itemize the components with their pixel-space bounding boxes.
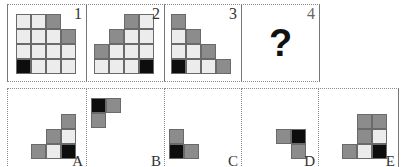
light-cell	[16, 14, 31, 29]
gray-cell	[169, 129, 184, 144]
gray-cell	[357, 114, 372, 129]
gray-cell	[357, 129, 372, 144]
light-cell	[94, 59, 109, 74]
light-cell	[372, 129, 387, 144]
light-cell	[61, 129, 76, 144]
gray-cell	[91, 113, 106, 128]
black-cell	[91, 98, 106, 113]
light-cell	[186, 44, 201, 59]
light-cell	[124, 29, 139, 44]
question-panel-3: 3	[164, 4, 242, 82]
panel-number: 3	[229, 6, 237, 22]
black-cell	[171, 59, 186, 74]
panel-number: 4	[307, 6, 315, 22]
light-cell	[171, 44, 186, 59]
option-c[interactable]: C	[164, 88, 242, 167]
gray-cell	[201, 44, 216, 59]
light-cell	[139, 29, 154, 44]
light-cell	[16, 29, 31, 44]
option-label: A	[72, 154, 83, 167]
light-cell	[61, 44, 76, 59]
option-d[interactable]: D	[241, 88, 319, 167]
question-panel-4: ? 4	[241, 4, 320, 82]
gray-cell	[31, 144, 46, 159]
option-b[interactable]: B	[86, 88, 165, 167]
light-cell	[31, 44, 46, 59]
gray-cell	[61, 29, 76, 44]
gray-cell	[171, 14, 186, 29]
light-cell	[46, 29, 61, 44]
gray-cell	[94, 44, 109, 59]
question-panel-1: 1	[7, 4, 87, 82]
light-cell	[124, 59, 139, 74]
light-cell	[31, 14, 46, 29]
question-panel-2: 2	[86, 4, 165, 82]
gray-cell	[372, 114, 387, 129]
option-label: D	[304, 154, 315, 167]
gray-cell	[276, 129, 291, 144]
option-a[interactable]: A	[7, 88, 87, 167]
gray-cell	[186, 29, 201, 44]
light-cell	[124, 44, 139, 59]
panel-number: 1	[74, 6, 82, 22]
light-cell	[16, 44, 31, 59]
light-cell	[109, 44, 124, 59]
gray-cell	[61, 114, 76, 129]
black-cell	[139, 59, 154, 74]
gray-cell	[342, 144, 357, 159]
gray-cell	[106, 98, 121, 113]
option-label: B	[151, 154, 161, 167]
panel-number: 2	[152, 6, 160, 22]
light-cell	[171, 29, 186, 44]
light-cell	[357, 144, 372, 159]
question-mark: ?	[242, 22, 319, 65]
black-cell	[16, 59, 31, 74]
gray-cell	[109, 29, 124, 44]
black-cell	[291, 129, 306, 144]
black-cell	[372, 144, 387, 159]
option-e[interactable]: E	[318, 88, 399, 167]
option-label: E	[386, 154, 395, 167]
light-cell	[46, 44, 61, 59]
light-cell	[61, 59, 76, 74]
light-cell	[46, 59, 61, 74]
gray-cell	[46, 14, 61, 29]
gray-cell	[216, 59, 231, 74]
gray-cell	[184, 144, 199, 159]
gray-cell	[124, 14, 139, 29]
light-cell	[31, 59, 46, 74]
light-cell	[109, 59, 124, 74]
light-cell	[46, 144, 61, 159]
light-cell	[201, 59, 216, 74]
light-cell	[139, 44, 154, 59]
gray-cell	[46, 129, 61, 144]
option-label: C	[228, 154, 238, 167]
black-cell	[169, 144, 184, 159]
light-cell	[186, 59, 201, 74]
light-cell	[31, 29, 46, 44]
